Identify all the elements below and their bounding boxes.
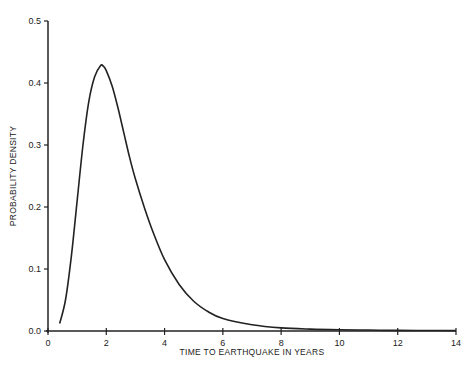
x-tick-label: 14	[451, 338, 461, 348]
chart: 0.00.10.20.30.40.502468101214 PROBABILIT…	[0, 0, 470, 377]
x-tick-label: 12	[393, 338, 403, 348]
y-tick-label: 0.1	[28, 264, 41, 274]
x-tick-label: 0	[45, 338, 50, 348]
plot-area: 0.00.10.20.30.40.502468101214	[28, 16, 461, 348]
x-tick-label: 2	[104, 338, 109, 348]
y-tick-label: 0.0	[28, 326, 41, 336]
y-axis-title: PROBABILITY DENSITY	[8, 126, 18, 227]
y-tick-label: 0.2	[28, 202, 41, 212]
x-axis-title: TIME TO EARTHQUAKE IN YEARS	[180, 347, 325, 357]
x-tick-label: 10	[334, 338, 344, 348]
density-curve	[60, 65, 456, 331]
x-tick-label: 4	[162, 338, 167, 348]
y-tick-label: 0.3	[28, 140, 41, 150]
y-tick-label: 0.4	[28, 78, 41, 88]
y-tick-label: 0.5	[28, 16, 41, 26]
